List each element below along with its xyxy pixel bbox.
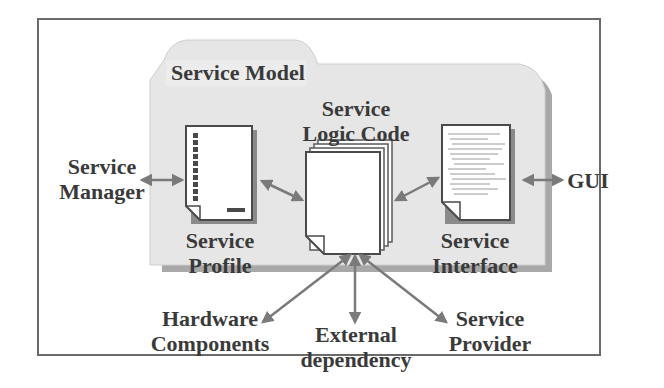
profile-label: Service Profile xyxy=(160,228,280,278)
logic-code-label: Service Logic Code xyxy=(286,96,426,146)
logic-code-document-stack-icon xyxy=(306,140,392,254)
gui-label: GUI xyxy=(566,168,610,193)
service-model-title: Service Model xyxy=(170,60,306,85)
profile-document-icon xyxy=(186,126,257,224)
interface-label: Service Interface xyxy=(420,228,530,278)
external-dependency-label: External dependency xyxy=(296,322,416,372)
interface-document-icon xyxy=(442,125,515,224)
service-provider-label: Service Provider xyxy=(440,306,540,356)
hardware-components-label: Hardware Components xyxy=(150,306,270,356)
service-manager-label: Service Manager xyxy=(54,154,150,204)
